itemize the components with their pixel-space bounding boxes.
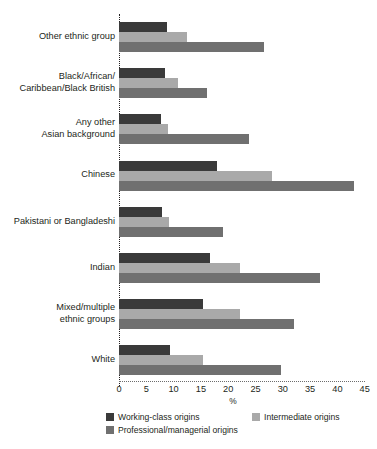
legend-item-intermediate: Intermediate origins: [252, 412, 339, 422]
category-label: White: [3, 354, 115, 366]
bar: [119, 114, 161, 124]
bar: [119, 88, 207, 98]
bars-container: [119, 22, 264, 52]
category-label: Any other Asian background: [3, 117, 115, 140]
bar: [119, 171, 272, 181]
x-tick-label: 10: [159, 384, 189, 394]
bar: [119, 227, 223, 237]
bar: [119, 345, 170, 355]
bar-group: Indian: [0, 245, 377, 285]
legend-label-professional: Professional/managerial origins: [118, 425, 238, 435]
x-tick-label: 30: [268, 384, 298, 394]
bars-container: [119, 114, 249, 144]
bar: [119, 319, 294, 329]
legend-swatch-professional: [106, 426, 114, 434]
bar: [119, 68, 165, 78]
x-axis-dotted-line: [119, 381, 365, 382]
bar: [119, 22, 167, 32]
x-tick-label: 40: [322, 384, 352, 394]
bar: [119, 124, 168, 134]
category-label: Black/African/ Caribbean/Black British: [3, 71, 115, 94]
bar: [119, 207, 162, 217]
bar: [119, 217, 169, 227]
x-axis-title-label: %: [223, 396, 243, 406]
bar-chart: Other ethnic groupBlack/African/ Caribbe…: [0, 0, 377, 449]
x-tick-label: 5: [131, 384, 161, 394]
bar: [119, 299, 203, 309]
x-tick-label: 0: [104, 384, 134, 394]
chart-legend: Working-class origins Intermediate origi…: [0, 412, 377, 446]
bar: [119, 32, 187, 42]
legend-swatch-intermediate: [252, 413, 260, 421]
legend-item-working-class: Working-class origins: [106, 412, 200, 422]
bar: [119, 161, 217, 171]
bar-group: Pakistani or Bangladeshi: [0, 199, 377, 239]
legend-swatch-working-class: [106, 413, 114, 421]
category-label: Other ethnic group: [3, 31, 115, 43]
x-tick-label: 45: [350, 384, 377, 394]
bar-group: Chinese: [0, 153, 377, 193]
bar-group: Other ethnic group: [0, 14, 377, 54]
bars-container: [119, 68, 207, 98]
legend-label-intermediate: Intermediate origins: [264, 412, 339, 422]
legend-item-professional: Professional/managerial origins: [106, 425, 238, 435]
bar: [119, 181, 354, 191]
bar-group: Any other Asian background: [0, 106, 377, 146]
x-axis-ticks: 051015202530354045: [0, 384, 377, 398]
plot-area: Other ethnic groupBlack/African/ Caribbe…: [0, 0, 377, 390]
bar: [119, 273, 320, 283]
x-tick-label: 20: [213, 384, 243, 394]
x-tick-label: 25: [241, 384, 271, 394]
bars-container: [119, 299, 294, 329]
bar: [119, 263, 240, 273]
x-tick-label: 15: [186, 384, 216, 394]
bar-group: Black/African/ Caribbean/Black British: [0, 60, 377, 100]
bar: [119, 134, 249, 144]
bar-group: White: [0, 337, 377, 377]
bar: [119, 365, 281, 375]
bars-container: [119, 207, 223, 237]
bar: [119, 78, 178, 88]
bars-container: [119, 161, 354, 191]
x-tick-label: 35: [295, 384, 325, 394]
legend-label-working-class: Working-class origins: [118, 412, 200, 422]
bar-group: Mixed/multiple ethnic groups: [0, 291, 377, 331]
bar: [119, 355, 203, 365]
bars-container: [119, 345, 281, 375]
category-label: Pakistani or Bangladeshi: [3, 216, 115, 228]
bar: [119, 309, 240, 319]
category-label: Mixed/multiple ethnic groups: [3, 302, 115, 325]
category-label: Chinese: [3, 169, 115, 181]
bar: [119, 42, 264, 52]
bar: [119, 253, 210, 263]
bars-container: [119, 253, 320, 283]
category-label: Indian: [3, 262, 115, 274]
